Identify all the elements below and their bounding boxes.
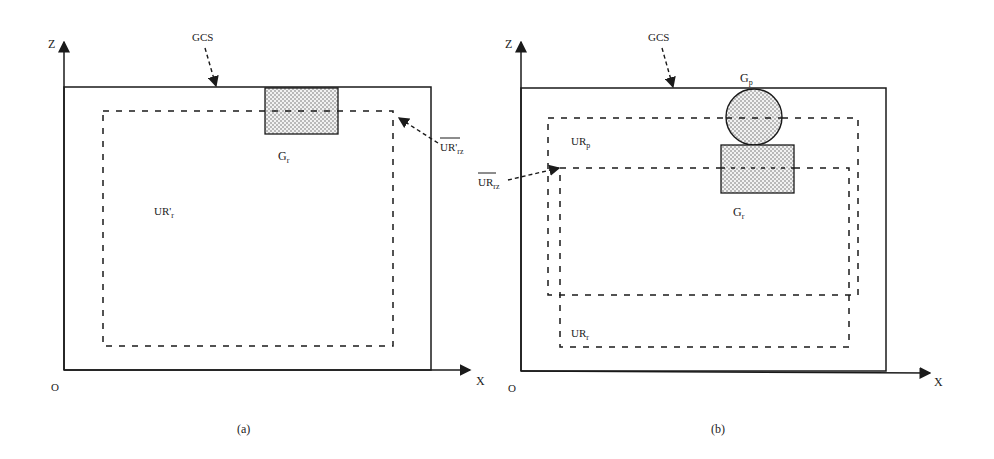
ur-r-prime-region [103,111,393,346]
gcs-boundary [64,87,431,370]
origin-label: O [508,382,516,394]
gcs-label: GCS [648,31,669,43]
caption-a: (a) [237,422,250,436]
gr-label: Gr [278,149,290,165]
gp-label: Gp [740,71,753,87]
ur-r-label: URr [571,327,589,342]
panel-a: Z X O GCS Gr UR'r UR'rz (a) [48,31,485,436]
gr-label: Gr [733,205,745,221]
x-axis-label: X [476,374,485,388]
ur-p-region [548,118,858,295]
gcs-pointer-arrow [662,48,673,87]
z-axis-label: Z [48,37,55,51]
caption-b: (b) [711,422,725,436]
panel-b: Z X O GCS Gp Gr URp URr URrz (b) [478,31,943,436]
gcs-pointer-arrow [205,48,216,86]
origin-label: O [51,381,59,393]
gr-shape [721,145,794,193]
z-axis-label: Z [505,37,512,51]
ur-r-region [560,168,849,347]
gcs-label: GCS [192,31,213,43]
ur-p-label: URp [571,135,590,150]
diagram-canvas: Z X O GCS Gr UR'r UR'rz (a) Z X O [0,0,994,459]
ur-rz-pointer-arrow [508,168,559,180]
ur-rz-pointer-arrow [399,118,438,143]
ur-rz-prime-label: UR'rz [440,141,464,156]
x-axis-label: X [934,375,943,389]
gp-shape [726,89,782,145]
ur-rz-label: URrz [478,176,500,191]
ur-r-prime-label: UR'r [154,205,174,220]
